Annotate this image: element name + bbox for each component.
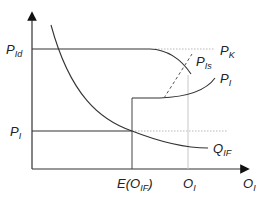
economics-diagram: PId PI E(OIF) OI OI PK PIs PI QIF: [0, 0, 266, 197]
curve-label-p-k: PK: [220, 43, 236, 60]
curve-label-p-i: PI: [220, 71, 232, 88]
y-label-p-i: PI: [10, 124, 22, 141]
x-label-o-i: OI: [183, 176, 196, 193]
p-id-line-and-p-k-curve: [32, 49, 191, 74]
p-i-curve: [132, 78, 215, 98]
q-if-curve: [51, 25, 208, 148]
y-label-p-id: PId: [6, 42, 23, 59]
curve-label-p-is: PIs: [196, 54, 212, 71]
x-axis-label: OI: [243, 176, 256, 193]
x-label-e-oif: E(OIF): [117, 176, 152, 193]
curve-label-q-if: QIF: [213, 141, 232, 158]
